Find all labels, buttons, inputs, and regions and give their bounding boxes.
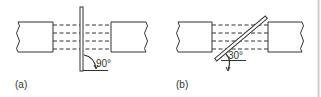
panel-b: 30° (b) bbox=[176, 16, 304, 90]
diagram-canvas: 90° (a) 30° (b) bbox=[0, 0, 321, 97]
caption-b: (b) bbox=[176, 79, 188, 90]
angle-label-a: 90° bbox=[96, 58, 111, 69]
plate-a bbox=[80, 7, 83, 71]
caption-a: (a) bbox=[15, 79, 27, 90]
left-block-b bbox=[177, 22, 213, 52]
right-block-b bbox=[268, 22, 304, 52]
angle-label-b: 30° bbox=[228, 50, 243, 61]
left-block-a bbox=[17, 22, 54, 52]
panel-a: 90° (a) bbox=[15, 7, 148, 90]
right-block-a bbox=[111, 22, 148, 52]
